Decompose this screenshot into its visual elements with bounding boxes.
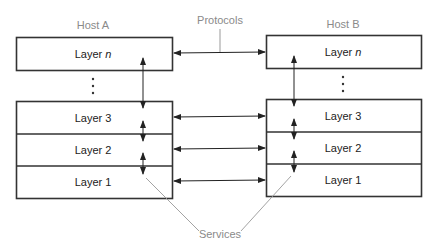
host-a-layer-3-label: Layer 3 [75, 112, 112, 124]
protocols-label: Protocols [197, 14, 243, 26]
host-a-layer-n-label: Layer n [75, 48, 112, 60]
protocol-arrow-layer-3 [174, 116, 265, 117]
host-a-layer-1-label: Layer 1 [75, 176, 112, 188]
host-a-stack: Layer n Layer 3 Layer 2 Layer 1 [17, 38, 173, 199]
host-a-label: Host A [77, 19, 110, 31]
host-b-stack: Layer n Layer 3 Layer 2 Layer 1 [267, 36, 422, 197]
host-b-layer-3-label: Layer 3 [325, 110, 362, 122]
protocol-arrow-layer-1 [174, 180, 265, 181]
protocol-arrow-layer-n [174, 52, 265, 53]
protocol-arrows [174, 52, 265, 181]
host-b-ellipsis-dots [342, 76, 344, 92]
host-b-layer-n-label: Layer n [325, 46, 362, 58]
host-a-ellipsis-dots [92, 78, 94, 94]
host-a-layer-2-label: Layer 2 [75, 144, 112, 156]
protocol-arrow-layer-2 [174, 148, 265, 149]
host-b-layer-2-label: Layer 2 [325, 142, 362, 154]
layered-protocol-diagram: Host A Host B Protocols Layer n Layer 3 … [0, 0, 434, 250]
services-label: Services [199, 228, 242, 240]
host-b-label: Host B [326, 18, 359, 30]
host-b-layer-1-label: Layer 1 [325, 174, 362, 186]
